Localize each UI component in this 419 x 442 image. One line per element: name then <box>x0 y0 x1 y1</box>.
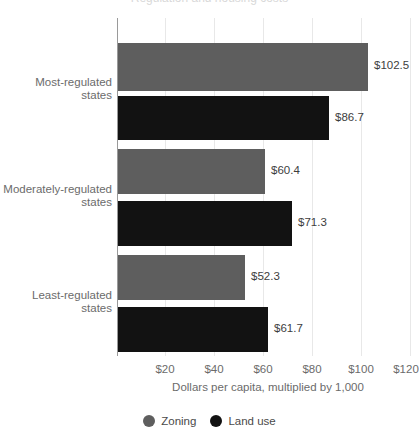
plot-area: $102.5 $86.7 $60.4 $71.3 $52.3 $61.7 <box>117 18 419 356</box>
bar-value-landuse-most-regulated: $86.7 <box>335 112 364 124</box>
chart-legend: Zoning Land use <box>0 415 419 427</box>
bar-value-zoning-most-regulated: $102.5 <box>374 60 409 72</box>
y-axis-label-line-1: Least-regulated <box>32 289 112 301</box>
legend-item-zoning[interactable]: Zoning <box>143 415 196 427</box>
bar-zoning-most-regulated[interactable] <box>117 43 368 91</box>
y-axis-line <box>117 18 118 356</box>
x-tick-60: $60 <box>253 362 272 376</box>
bar-landuse-moderately-regulated[interactable] <box>117 201 292 246</box>
legend-label-land-use: Land use <box>228 415 275 427</box>
gridline-120 <box>410 18 411 356</box>
bar-value-zoning-least-regulated: $52.3 <box>251 271 280 283</box>
bar-landuse-least-regulated[interactable] <box>117 307 268 352</box>
x-tick-100: $100 <box>348 362 374 376</box>
legend-swatch-circle-icon <box>210 415 222 427</box>
y-axis-label-line-2: states <box>81 196 112 208</box>
x-tick-40: $40 <box>204 362 223 376</box>
bar-chart-figure: Most-regulated states Moderately-regulat… <box>0 0 419 442</box>
bar-zoning-moderately-regulated[interactable] <box>117 149 265 194</box>
y-axis-label-line-1: Most-regulated <box>35 76 112 88</box>
x-axis-title: Dollars per capita, multiplied by 1,000 <box>117 380 419 394</box>
x-axis-tick-labels: $20 $40 $60 $80 $100 $120 <box>0 362 419 378</box>
y-axis-label-moderately-regulated: Moderately-regulated states <box>0 183 112 209</box>
y-axis-label-line-2: states <box>81 302 112 314</box>
y-axis-label-most-regulated: Most-regulated states <box>0 76 112 102</box>
y-axis-label-least-regulated: Least-regulated states <box>0 289 112 315</box>
y-axis-label-line-2: states <box>81 89 112 101</box>
bar-zoning-least-regulated[interactable] <box>117 255 245 300</box>
x-tick-20: $20 <box>155 362 174 376</box>
legend-label-zoning: Zoning <box>161 415 196 427</box>
bar-value-zoning-moderately-regulated: $60.4 <box>271 165 300 177</box>
legend-swatch-circle-icon <box>143 415 155 427</box>
bar-value-landuse-least-regulated: $61.7 <box>274 323 303 335</box>
legend-item-land-use[interactable]: Land use <box>210 415 275 427</box>
x-tick-80: $80 <box>302 362 321 376</box>
bar-landuse-most-regulated[interactable] <box>117 96 329 140</box>
y-axis-label-line-1: Moderately-regulated <box>3 183 112 195</box>
x-tick-120: $120 <box>393 362 419 376</box>
bar-value-landuse-moderately-regulated: $71.3 <box>298 217 327 229</box>
